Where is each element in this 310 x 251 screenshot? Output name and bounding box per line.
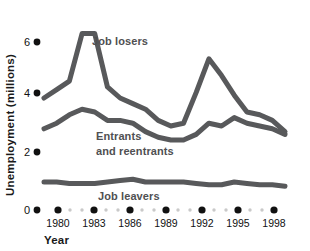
y-axis-dot-2: [34, 149, 41, 156]
x-tick-label-1995: 1995: [226, 217, 250, 229]
x-axis-minor-dot: [224, 208, 227, 211]
x-tick-label-1992: 1992: [190, 217, 214, 229]
y-axis-dot-4: [34, 90, 41, 97]
x-axis-minor-dot: [188, 208, 191, 211]
x-axis-minor-dot: [68, 208, 71, 211]
chart-svg: Unemployment (millions) 6 4 2 0: [0, 0, 310, 251]
series-label-job-losers: Job losers: [92, 35, 148, 47]
x-axis-minor-dot: [212, 208, 215, 211]
series-label-entrants-line2: and reentrants: [96, 145, 174, 157]
x-axis-minor-dot: [248, 208, 251, 211]
series-label-job-leavers: Job leavers: [98, 190, 160, 202]
x-axis-dot-1998: [270, 206, 277, 213]
y-axis-dot-0: [34, 207, 41, 214]
x-axis-dot-1989: [162, 206, 169, 213]
y-tick-label-6: 6: [24, 36, 30, 48]
x-axis-title: Year: [44, 234, 69, 246]
x-axis-dot-1986: [126, 206, 133, 213]
x-axis-minor-dot: [260, 208, 263, 211]
x-axis-dot-1980: [54, 206, 61, 213]
x-axis-dot-1995: [234, 206, 241, 213]
chart-figure: Unemployment (millions) 6 4 2 0: [0, 0, 310, 251]
x-tick-label-1986: 1986: [118, 217, 142, 229]
y-tick-label-0: 0: [24, 204, 30, 216]
y-tick-label-2: 2: [24, 146, 30, 158]
x-tick-label-1983: 1983: [82, 217, 106, 229]
x-axis-minor-dot: [176, 208, 179, 211]
x-axis-dot-1992: [198, 206, 205, 213]
y-axis-dot-6: [34, 39, 41, 46]
y-axis-title: Unemployment (millions): [4, 54, 16, 196]
x-axis-minor-dot: [152, 208, 155, 211]
y-tick-label-4: 4: [24, 87, 30, 99]
x-axis-minor-dot: [116, 208, 119, 211]
x-axis-minor-dot: [80, 208, 83, 211]
series-label-entrants-line1: Entrants: [96, 130, 141, 142]
x-axis-minor-dot: [104, 208, 107, 211]
x-tick-label-1980: 1980: [46, 217, 70, 229]
x-axis-dot-1983: [90, 206, 97, 213]
x-axis-minor-dot: [140, 208, 143, 211]
x-tick-label-1998: 1998: [262, 217, 286, 229]
x-tick-label-1989: 1989: [154, 217, 178, 229]
